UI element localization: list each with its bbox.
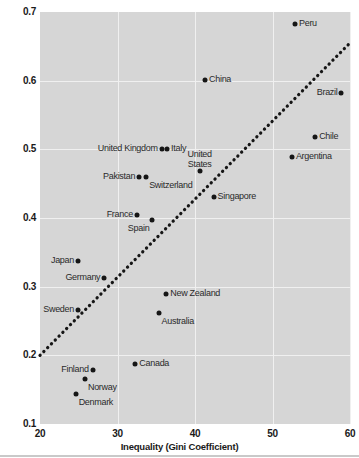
data-point-label: Australia [162, 318, 194, 328]
x-axis-tick-label: 40 [180, 429, 210, 439]
data-point [339, 91, 344, 96]
data-point-label: China [209, 75, 231, 85]
trendline [40, 12, 350, 424]
data-point-label: Sweden [43, 305, 74, 315]
y-axis-tick-label: 0.4 [2, 213, 36, 223]
data-point-label: Pakistan [103, 173, 135, 183]
data-point-label: France [107, 211, 133, 221]
gridline-vertical [350, 12, 351, 424]
data-point [289, 154, 294, 159]
data-point [203, 77, 208, 82]
y-axis-tick-label: 0.7 [2, 7, 36, 17]
scatter-chart: PeruBrazilChinaChileArgentinaUnited King… [0, 0, 359, 458]
data-point [159, 147, 164, 152]
data-point [90, 368, 95, 373]
data-point [211, 195, 216, 200]
data-point [292, 22, 297, 27]
data-point-label: United States [177, 150, 223, 169]
data-point-label: Brazil [317, 88, 338, 98]
y-axis-tick-label: 0.6 [2, 76, 36, 86]
data-point-label: Switzerland [149, 182, 192, 192]
x-axis-title: Inequality (Gini Coefficient) [0, 441, 359, 452]
data-point [102, 275, 107, 280]
x-axis-tick-label: 60 [335, 429, 359, 439]
y-axis-tick-label: 0.5 [2, 144, 36, 154]
data-point [75, 308, 80, 313]
data-point-label: Germany [65, 273, 100, 283]
x-axis-tick-label: 50 [258, 429, 288, 439]
footer-rule [0, 455, 359, 457]
data-point-label: Japan [51, 257, 74, 267]
data-point-label: Norway [88, 383, 117, 393]
data-point-label: Canada [139, 360, 169, 370]
x-axis-tick-label: 20 [25, 429, 55, 439]
data-point-label: Peru [299, 20, 317, 30]
data-point [75, 259, 80, 264]
data-point [134, 213, 139, 218]
data-point [165, 147, 170, 152]
y-axis-tick-label: 0.1 [2, 419, 36, 429]
data-point [82, 376, 87, 381]
plot-area: PeruBrazilChinaChileArgentinaUnited King… [40, 12, 350, 424]
data-point [144, 175, 149, 180]
y-axis-tick-label: 0.3 [2, 282, 36, 292]
data-point-label: New Zealand [170, 289, 220, 299]
data-point [137, 175, 142, 180]
y-axis-tick-label: 0.2 [2, 350, 36, 360]
data-point [73, 392, 78, 397]
data-point-label: Spain [128, 224, 150, 234]
data-point-label: United Kingdom [98, 145, 158, 155]
data-point-label: Argentina [296, 152, 332, 162]
x-axis-tick-label: 30 [103, 429, 133, 439]
data-point [197, 169, 202, 174]
data-point-label: Finland [61, 366, 88, 376]
data-point [313, 134, 318, 139]
data-point [156, 311, 161, 316]
data-point [164, 292, 169, 297]
data-point-label: Singapore [218, 193, 256, 203]
data-point-label: Chile [319, 132, 338, 142]
data-point [150, 218, 155, 223]
data-point-label: Denmark [79, 399, 113, 409]
data-point [133, 362, 138, 367]
